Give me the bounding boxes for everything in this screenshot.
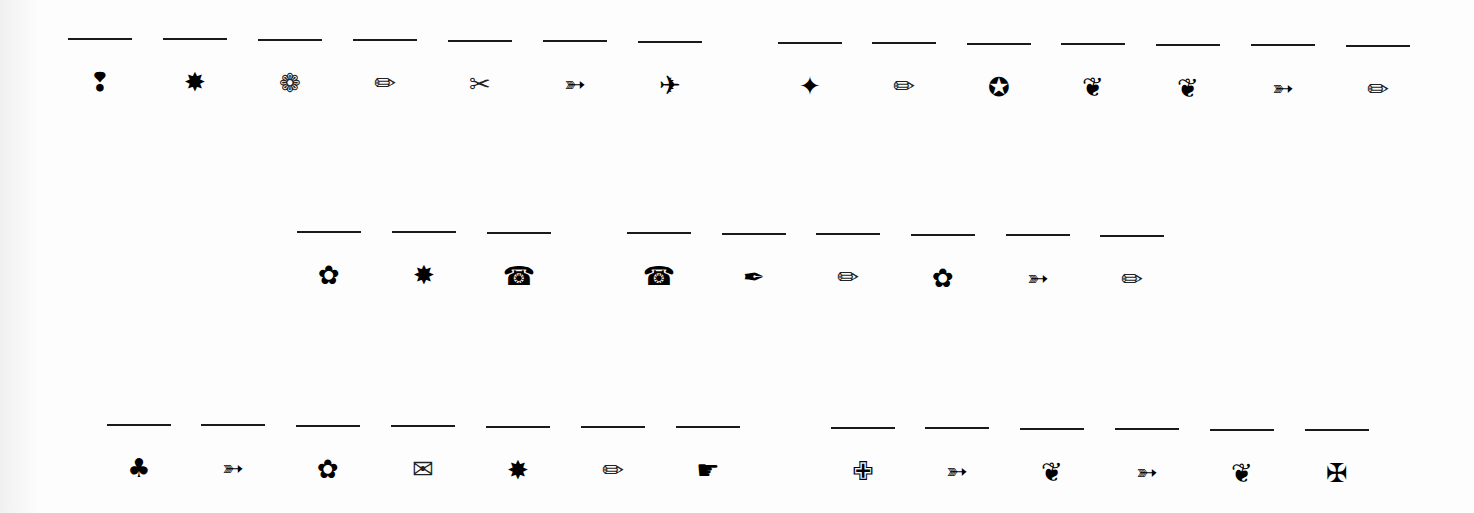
blank-cell[interactable]: ❦ (1210, 429, 1276, 509)
starburst-icon: ✸ (392, 259, 456, 291)
pencil-icon: ✏ (581, 454, 645, 486)
floral-heart-icon: ❦ (1210, 457, 1274, 489)
maltese-cross-icon: ✠ (1305, 457, 1369, 489)
blank-cell[interactable]: ➳ (543, 40, 609, 120)
answer-blank[interactable] (627, 232, 691, 234)
pen-nib-icon: ✒ (722, 261, 786, 293)
answer-blank[interactable] (638, 41, 702, 43)
blank-cell[interactable]: ➳ (925, 427, 991, 507)
blank-cell[interactable]: ☎ (627, 232, 693, 312)
airplane-icon: ✈ (638, 69, 702, 101)
hollow-center-star-icon: ✪ (967, 71, 1031, 103)
blank-cell[interactable]: ✙ (831, 427, 897, 507)
answer-blank[interactable] (296, 425, 360, 427)
blank-cell[interactable]: ✈ (638, 41, 704, 121)
answer-blank[interactable] (816, 233, 880, 235)
answer-blank[interactable] (676, 426, 740, 428)
blank-cell[interactable]: ✸ (486, 426, 552, 506)
envelope-icon: ✉ (391, 453, 455, 485)
answer-blank[interactable] (448, 40, 512, 42)
blank-cell[interactable]: ✏ (872, 42, 938, 122)
arrow-icon: ➳ (1006, 262, 1070, 294)
answer-blank[interactable] (201, 424, 265, 426)
answer-blank[interactable] (1251, 44, 1315, 46)
blank-cell[interactable]: ❦ (1061, 43, 1127, 123)
heavy-exclamation-drop-icon: ❢ (68, 66, 132, 98)
blank-cell[interactable]: ✉ (391, 425, 457, 505)
answer-blank[interactable] (911, 234, 975, 236)
answer-blank[interactable] (778, 42, 842, 44)
answer-blank[interactable] (872, 42, 936, 44)
blank-cell[interactable]: ✏ (1100, 235, 1166, 315)
answer-blank[interactable] (1020, 428, 1084, 430)
answer-blank[interactable] (1156, 44, 1220, 46)
starburst-icon: ✸ (486, 454, 550, 486)
answer-blank[interactable] (1210, 429, 1274, 431)
answer-blank[interactable] (831, 427, 895, 429)
blank-cell[interactable]: ❦ (1156, 44, 1222, 124)
blank-cell[interactable]: ❁ (258, 39, 324, 119)
pencil-icon: ✏ (872, 70, 936, 102)
five-petal-flower-icon: ✿ (296, 453, 360, 485)
arrow-icon: ➳ (1115, 456, 1179, 488)
outlined-cross-icon: ✙ (831, 455, 895, 487)
blank-cell[interactable]: ✿ (297, 231, 363, 311)
answer-blank[interactable] (722, 233, 786, 235)
answer-blank[interactable] (392, 231, 456, 233)
blank-cell[interactable]: ✠ (1305, 429, 1371, 509)
blank-cell[interactable]: ➳ (201, 424, 267, 504)
answer-blank[interactable] (258, 39, 322, 41)
blank-cell[interactable]: ✏ (581, 426, 647, 506)
answer-blank[interactable] (486, 426, 550, 428)
pencil-icon: ✏ (816, 261, 880, 293)
blank-cell[interactable]: ✂ (448, 40, 514, 120)
page-edge-shadow (0, 0, 40, 513)
blank-cell[interactable]: ✿ (296, 425, 362, 505)
pencil-icon: ✏ (1100, 263, 1164, 295)
answer-blank[interactable] (68, 38, 132, 40)
outlined-flower-icon: ❁ (258, 67, 322, 99)
answer-blank[interactable] (1100, 235, 1164, 237)
blank-cell[interactable]: ✒ (722, 233, 788, 313)
answer-blank[interactable] (297, 231, 361, 233)
answer-blank[interactable] (487, 232, 551, 234)
answer-blank[interactable] (391, 425, 455, 427)
answer-blank[interactable] (543, 40, 607, 42)
answer-blank[interactable] (1305, 429, 1369, 431)
answer-blank[interactable] (1006, 234, 1070, 236)
blank-cell[interactable]: ☛ (676, 426, 742, 506)
starburst-icon: ✸ (163, 66, 227, 98)
blank-cell[interactable]: ✏ (816, 233, 882, 313)
pencil-icon: ✏ (1346, 73, 1410, 105)
answer-blank[interactable] (107, 424, 171, 426)
blank-cell[interactable]: ❢ (68, 38, 134, 118)
arrow-icon: ➳ (1251, 72, 1315, 104)
blank-cell[interactable]: ✏ (353, 39, 419, 119)
answer-blank[interactable] (581, 426, 645, 428)
blank-cell[interactable]: ♣ (107, 424, 173, 504)
telephone-icon: ☎ (487, 260, 551, 292)
answer-blank[interactable] (967, 43, 1031, 45)
answer-blank[interactable] (353, 39, 417, 41)
blank-cell[interactable]: ❦ (1020, 428, 1086, 508)
floral-heart-icon: ❦ (1020, 456, 1084, 488)
blank-cell[interactable]: ✸ (163, 38, 229, 118)
blank-cell[interactable]: ✏ (1346, 45, 1412, 125)
blank-cell[interactable]: ✸ (392, 231, 458, 311)
blank-cell[interactable]: ➳ (1251, 44, 1317, 124)
answer-blank[interactable] (925, 427, 989, 429)
blank-cell[interactable]: ✪ (967, 43, 1033, 123)
blank-cell[interactable]: ➳ (1115, 428, 1181, 508)
blank-cell[interactable]: ☎ (487, 232, 553, 312)
answer-blank[interactable] (1346, 45, 1410, 47)
answer-blank[interactable] (1061, 43, 1125, 45)
blank-cell[interactable]: ✦ (778, 42, 844, 122)
arrow-icon: ➳ (543, 68, 607, 100)
blank-cell[interactable]: ➳ (1006, 234, 1072, 314)
five-petal-flower-icon: ✿ (297, 259, 361, 291)
pencil-icon: ✏ (353, 67, 417, 99)
blank-cell[interactable]: ✿ (911, 234, 977, 314)
five-petal-flower-icon: ✿ (911, 262, 975, 294)
answer-blank[interactable] (163, 38, 227, 40)
answer-blank[interactable] (1115, 428, 1179, 430)
